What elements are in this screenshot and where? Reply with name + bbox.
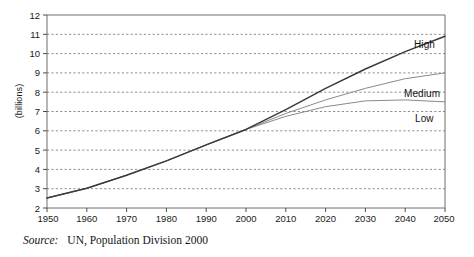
series-label-high: High [414, 39, 435, 50]
x-tick-label: 2000 [235, 213, 256, 224]
x-tick-label: 1990 [196, 213, 217, 224]
x-tick-label: 1980 [156, 213, 177, 224]
y-tick-labels: 12 11 10 9 8 7 6 5 4 3 2 [29, 10, 40, 214]
x-tick-label: 2040 [395, 213, 416, 224]
y-tick-marks [43, 15, 47, 208]
y-tick-label: 12 [29, 10, 40, 21]
source-caption: Source:UN, Population Division 2000 [23, 234, 208, 246]
x-tick-label: 1950 [37, 213, 58, 224]
x-tick-label: 2020 [315, 213, 336, 224]
x-tick-label: 1970 [116, 213, 137, 224]
source-label: Source: [23, 234, 58, 246]
x-tick-marks [47, 208, 445, 212]
x-tick-label: 2030 [355, 213, 376, 224]
y-tick-label: 8 [35, 87, 40, 98]
y-axis-title: (billions) [14, 66, 24, 136]
y-tick-label: 11 [30, 29, 40, 40]
y-tick-label: 4 [35, 164, 40, 175]
y-tick-label: 7 [35, 106, 40, 117]
y-tick-label: 5 [35, 145, 40, 156]
population-projection-chart: 12 11 10 9 8 7 6 5 4 3 2 [0, 0, 474, 225]
series-label-low: Low [415, 113, 434, 124]
x-tick-label: 1960 [76, 213, 97, 224]
y-tick-label: 6 [35, 125, 40, 136]
x-tick-label: 2050 [433, 213, 454, 224]
y-tick-label: 10 [29, 48, 40, 59]
source-text: UN, Population Division 2000 [67, 234, 208, 246]
population-projection-figure: 12 11 10 9 8 7 6 5 4 3 2 [0, 0, 474, 257]
x-tick-labels: 1950 1960 1970 1980 1990 2000 2010 2020 … [37, 213, 454, 224]
y-tick-label: 9 [35, 67, 40, 78]
y-tick-label: 3 [35, 183, 40, 194]
series-label-medium: Medium [404, 88, 440, 99]
y-tick-label: 2 [35, 203, 40, 214]
x-tick-label: 2010 [275, 213, 296, 224]
